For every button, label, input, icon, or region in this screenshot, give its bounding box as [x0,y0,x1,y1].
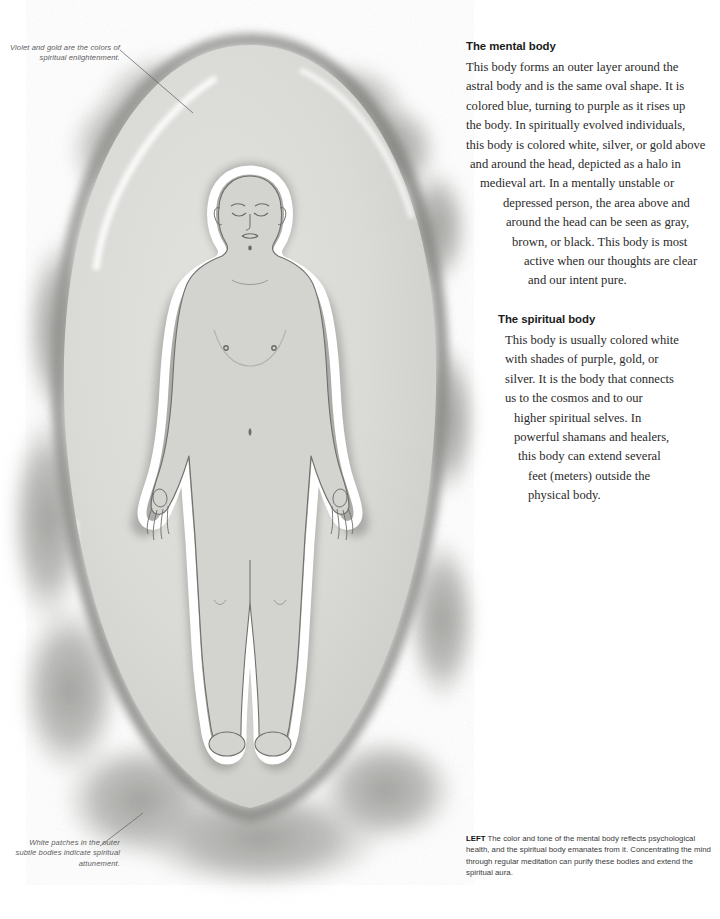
aura-illustration [0,0,500,919]
text-line: active when our thoughts are clear [466,252,716,271]
text-line: and around the head, depicted as a halo … [466,155,716,174]
text-line: this body is colored white, silver, or g… [466,136,716,155]
text-line: this body can extend several [466,447,716,466]
text-line: brown, or black. This body is most [466,233,716,252]
text-line: silver. It is the body that connects [466,370,716,389]
paragraph-mental-body: This body forms an outer layer around th… [466,58,716,291]
text-line: colored blue, turning to purple as it ri… [466,97,716,116]
text-line: medieval art. In a mentally unstable or [466,174,716,193]
text-line: us to the cosmos and to our [466,389,716,408]
text-line: depressed person, the area above and [466,194,716,213]
text-line: higher spiritual selves. In [466,409,716,428]
text-line: This body forms an outer layer around th… [466,58,716,77]
text-line: feet (meters) outside the [466,467,716,486]
text-column: The mental body This body forms an outer… [466,40,716,506]
aura-illustration-svg [0,0,500,919]
text-line: physical body. [466,486,716,505]
caption-lead-label: LEFT [466,834,486,843]
text-line: around the head can be seen as gray, [466,213,716,232]
heading-mental-body: The mental body [466,40,716,52]
text-line: and our intent pure. [466,271,716,290]
section-spiritual-body: The spiritual body This body is usually … [466,313,716,506]
paragraph-spiritual-body: This body is usually colored white with … [466,331,716,506]
text-line: astral body and is the same oval shape. … [466,77,716,96]
text-line: the body. In spiritually evolved individ… [466,116,716,135]
text-line: This body is usually colored white [466,331,716,350]
annotation-violet-gold: Violet and gold are the colors of spirit… [8,43,120,64]
text-line: powerful shamans and healers, [466,428,716,447]
figure-caption: LEFT The color and tone of the mental bo… [466,833,714,879]
text-line: with shades of purple, gold, or [466,350,716,369]
page-root: Violet and gold are the colors of spirit… [0,0,720,919]
annotation-white-patches: White patches in the outer subtle bodies… [8,838,120,869]
caption-text: The color and tone of the mental body re… [466,834,711,877]
heading-spiritual-body: The spiritual body [466,313,716,325]
section-mental-body: The mental body This body forms an outer… [466,40,716,291]
